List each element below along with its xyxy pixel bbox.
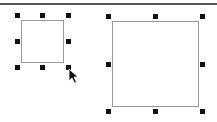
- resize-handle-s[interactable]: [153, 109, 158, 114]
- resize-handle-n[interactable]: [153, 14, 158, 19]
- resize-handle-e[interactable]: [66, 39, 71, 44]
- resize-handle-w[interactable]: [15, 39, 20, 44]
- resize-handle-ne[interactable]: [200, 14, 205, 19]
- resize-handle-e[interactable]: [200, 62, 205, 67]
- resize-handle-n[interactable]: [40, 13, 45, 18]
- resize-handle-ne[interactable]: [66, 13, 71, 18]
- small-square-shape[interactable]: [21, 20, 64, 63]
- large-square-shape[interactable]: [112, 21, 199, 107]
- resize-handle-se[interactable]: [200, 109, 205, 114]
- top-divider: [0, 3, 217, 5]
- resize-handle-w[interactable]: [106, 62, 111, 67]
- resize-handle-nw[interactable]: [106, 14, 111, 19]
- resize-handle-sw[interactable]: [15, 65, 20, 70]
- resize-handle-nw[interactable]: [15, 13, 20, 18]
- arrow-pointer-icon: [68, 68, 80, 84]
- resize-handle-s[interactable]: [40, 65, 45, 70]
- resize-handle-sw[interactable]: [106, 109, 111, 114]
